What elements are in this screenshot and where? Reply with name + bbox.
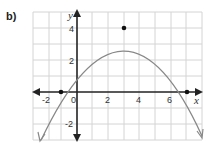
x-tick-label: 6 [167, 95, 172, 105]
x-tick-label: -2 [42, 95, 50, 105]
y-axis-label: y [67, 9, 73, 21]
x-tick-label: 0 [71, 95, 76, 105]
y-tick-label: -2 [65, 119, 73, 129]
x-tick-label: 2 [105, 95, 110, 105]
x-axis-label: x [193, 94, 199, 106]
y-tick-label: 2 [69, 56, 74, 66]
x-intercept-right [185, 90, 190, 95]
x-tick-label: 4 [136, 95, 141, 105]
x-intercept-left [59, 90, 64, 95]
vertex-point [122, 26, 127, 31]
y-tick-label: 4 [69, 24, 74, 34]
grid [33, 12, 202, 140]
graph: -2 0 2 4 6 4 2 -2 y x [0, 0, 206, 146]
